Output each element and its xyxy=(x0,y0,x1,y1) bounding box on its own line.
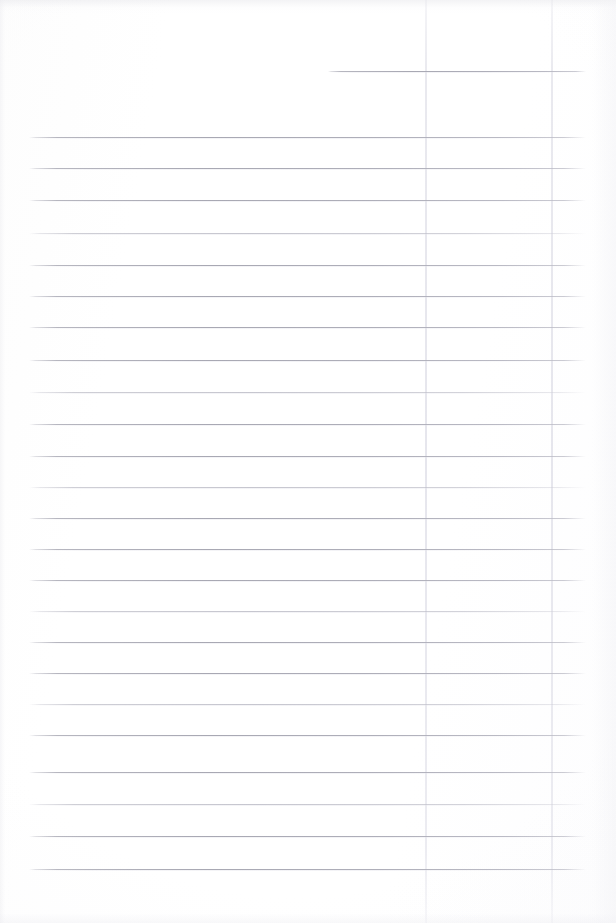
paper-background xyxy=(0,0,616,923)
ruled-page xyxy=(0,0,616,923)
